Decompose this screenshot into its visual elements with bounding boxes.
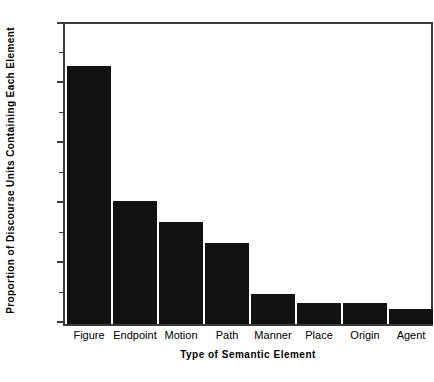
x-tick-label-agent: Agent	[397, 330, 426, 341]
x-axis-title: Type of Semantic Element	[63, 349, 433, 360]
x-tick-label-place: Place	[305, 330, 333, 341]
x-tick-label-origin: Origin	[350, 330, 379, 341]
x-tick-label-motion: Motion	[164, 330, 197, 341]
bar-figure	[67, 66, 111, 324]
x-tick-label-endpoint: Endpoint	[113, 330, 156, 341]
bar-origin	[343, 303, 387, 324]
y-axis-title: Proportion of Discourse Units Containing…	[6, 27, 16, 314]
bar-place	[297, 303, 341, 324]
bar-chart-figure: Proportion of Discourse Units Containing…	[0, 0, 434, 382]
bar-motion	[159, 222, 203, 324]
bar-path	[205, 243, 249, 324]
bar-endpoint	[113, 201, 157, 324]
x-tick-label-figure: Figure	[73, 330, 104, 341]
bars-container	[65, 24, 431, 324]
bar-agent	[389, 309, 433, 324]
x-tick-label-manner: Manner	[254, 330, 291, 341]
bar-manner	[251, 294, 295, 324]
x-tick-label-path: Path	[216, 330, 239, 341]
y-axis-title-container: Proportion of Discourse Units Containing…	[0, 0, 22, 340]
